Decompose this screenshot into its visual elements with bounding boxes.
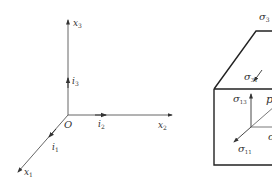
p-label: p xyxy=(266,93,272,106)
sigma11-arrow xyxy=(234,127,251,142)
sigma13-label: σ13 xyxy=(233,93,247,105)
stress-diagram: x3 i3 O i2 x2 i1 x1 σ3 σ31 σ13 p σ11 σ xyxy=(0,0,272,186)
i1-vector xyxy=(49,129,56,137)
stress-cube: σ3 σ31 σ13 p σ11 σ xyxy=(214,11,272,165)
sigma33-label: σ3 xyxy=(259,11,270,23)
origin-label: O xyxy=(64,119,72,130)
coordinate-system: x3 i3 O i2 x2 i1 x1 xyxy=(18,18,172,178)
sigma11-label: σ11 xyxy=(238,143,252,155)
i2-label: i2 xyxy=(98,119,105,130)
i1-label: i1 xyxy=(52,142,59,153)
x3-label: x3 xyxy=(73,18,82,29)
x1-label: x1 xyxy=(24,167,33,178)
p-line xyxy=(251,106,272,127)
x1-axis xyxy=(18,115,68,172)
sigma31-label: σ31 xyxy=(244,71,258,83)
x2-label: x2 xyxy=(158,120,167,131)
sigma-partial-label: σ xyxy=(268,131,272,142)
i3-label: i3 xyxy=(72,76,79,87)
